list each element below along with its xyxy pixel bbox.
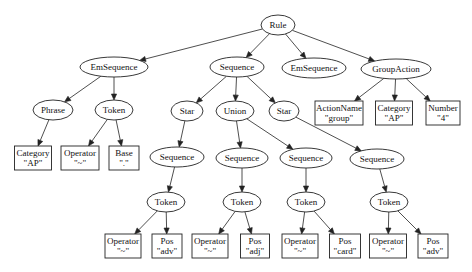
node-label: ActionName: [316, 103, 362, 113]
edge-sequence-to-token: [380, 169, 387, 192]
arrowhead-icon: [38, 139, 43, 146]
arrowhead-icon: [300, 228, 305, 234]
node-label: Token: [103, 105, 126, 115]
arrowhead-icon: [237, 142, 242, 148]
node-emsequence: EmSequence: [80, 57, 148, 77]
arrowhead-icon: [355, 95, 361, 101]
arrowhead-icon: [239, 186, 244, 192]
node-actionname: ActionName"group": [315, 101, 363, 125]
node-label: Pos: [426, 236, 440, 246]
edge-sequence-to-token: [303, 168, 308, 192]
node-phrase: Phrase: [33, 100, 73, 120]
arrowhead-icon: [303, 186, 308, 192]
node-category: Category"AP": [376, 101, 413, 125]
edge-rule-to-emsequence: [286, 34, 306, 58]
arrowhead-icon: [233, 95, 238, 101]
node-label: Token: [231, 197, 254, 207]
node-label: Sequence: [289, 153, 323, 163]
node-label: Rule: [270, 20, 287, 30]
node-label: Category: [378, 103, 411, 113]
node-value: "card": [334, 246, 357, 256]
parse-tree-diagram: RuleEmSequenceSequenceEmSequenceGroupAct…: [0, 0, 472, 272]
node-label: Pos: [248, 236, 262, 246]
node-value: "~": [204, 246, 217, 256]
node-label: Phrase: [41, 105, 65, 115]
node-label: Sequence: [225, 153, 259, 163]
node-value: "~": [382, 246, 395, 256]
arrowhead-icon: [247, 228, 252, 234]
edge-sequence-to-token: [239, 168, 244, 192]
arrowhead-icon: [219, 228, 225, 234]
node-token: Token: [147, 192, 185, 212]
arrowhead-icon: [167, 186, 172, 192]
node-operator: Operator"~": [61, 146, 99, 170]
node-label: Token: [295, 197, 318, 207]
node-value: "group": [325, 113, 354, 123]
node-base: Base".": [109, 146, 139, 170]
node-label: Number: [428, 103, 458, 113]
edge-token-to-pos: [245, 212, 252, 234]
node-value: "AP": [385, 113, 404, 123]
node-pos: Pos"adj": [241, 234, 270, 258]
node-category: Category"AP": [15, 146, 52, 170]
node-sequence: Sequence: [280, 148, 332, 168]
arrowhead-icon: [355, 146, 362, 151]
node-label: Operator: [284, 236, 316, 246]
node-rule: Rule: [261, 15, 295, 35]
arrowhead-icon: [286, 144, 292, 149]
node-label: Operator: [64, 148, 96, 158]
arrowhead-icon: [382, 186, 387, 192]
node-token: Token: [223, 192, 261, 212]
edge-token-to-operator: [89, 119, 108, 146]
edge-sequence-to-star: [247, 76, 275, 103]
node-label: Star: [277, 106, 292, 116]
node-value: "adj": [246, 246, 265, 256]
node-token: Token: [287, 192, 325, 212]
arrowhead-icon: [118, 140, 123, 146]
edge-token-to-pos: [314, 211, 334, 234]
edge-sequence-to-token: [167, 167, 174, 192]
node-pos: Pos"adv": [152, 234, 182, 258]
node-value: "~": [294, 246, 307, 256]
arrowhead-icon: [392, 95, 397, 101]
edge-token-to-operator: [300, 212, 305, 234]
node-label: Pos: [160, 236, 174, 246]
node-pos: Pos"card": [330, 234, 361, 258]
node-label: Sequence: [160, 152, 194, 162]
node-label: Union: [224, 106, 247, 116]
edge-token-to-pos: [398, 211, 421, 234]
edge-star-to-sequence: [178, 121, 185, 147]
node-star: Star: [171, 101, 203, 121]
node-label: EmSequence: [91, 62, 138, 72]
node-label: Star: [180, 106, 195, 116]
node-token: Token: [95, 100, 133, 120]
arrowhead-icon: [111, 94, 116, 100]
node-label: Sequence: [360, 154, 394, 164]
node-union: Union: [216, 101, 254, 121]
edge-phrase-to-category: [38, 120, 49, 146]
node-emsequence: EmSequence: [282, 58, 346, 78]
node-sequence: Sequence: [210, 57, 264, 77]
edge-groupaction-to-number: [406, 79, 430, 101]
node-value: "AP": [24, 158, 43, 168]
arrowhead-icon: [89, 140, 95, 146]
node-groupaction: GroupAction: [361, 59, 431, 79]
node-operator: Operator"~": [370, 234, 407, 258]
edge-token-to-base: [116, 120, 123, 146]
node-label: EmSequence: [291, 63, 338, 73]
arrowhead-icon: [386, 228, 391, 234]
node-label: GroupAction: [372, 64, 420, 74]
node-label: Base: [115, 148, 133, 158]
edge-emsequence-to-token: [111, 77, 116, 100]
arrowhead-icon: [178, 141, 183, 147]
node-number: Number"4": [426, 101, 460, 125]
edge-groupaction-to-category: [392, 79, 397, 101]
node-label: Token: [378, 197, 401, 207]
node-value: "~": [117, 246, 130, 256]
node-operator: Operator"~": [282, 234, 318, 258]
node-value: "adv": [157, 246, 178, 256]
node-token: Token: [370, 192, 408, 212]
edge-token-to-operator: [135, 211, 158, 234]
edge-union-to-sequence: [247, 119, 293, 150]
arrowhead-icon: [65, 96, 71, 102]
